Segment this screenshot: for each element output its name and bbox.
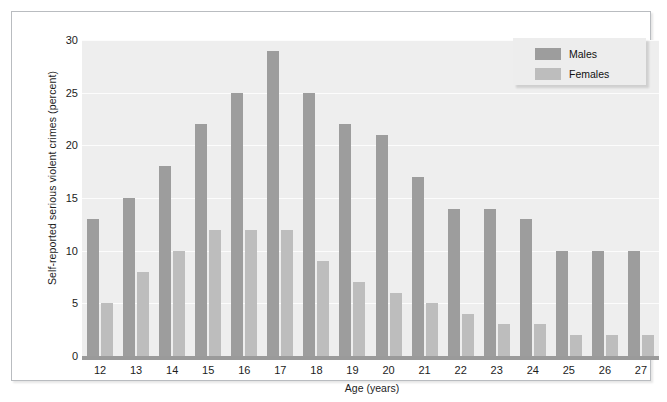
bar-females-age-15 <box>209 230 221 356</box>
y-axis-tick-labels: 051015202530 <box>42 12 78 402</box>
x-axis-label: Age (years) <box>82 382 662 394</box>
bar-males-age-25 <box>556 251 568 356</box>
bar-females-age-27 <box>642 335 654 356</box>
x-tick-label-23: 23 <box>491 364 503 376</box>
y-tick-label: 30 <box>56 34 78 46</box>
bar-females-age-20 <box>390 293 402 356</box>
y-tick-label: 0 <box>56 350 78 362</box>
bar-males-age-27 <box>628 251 640 356</box>
legend-label-females: Females <box>569 68 609 80</box>
bar-females-age-21 <box>426 303 438 356</box>
plot-area <box>82 40 659 356</box>
bar-females-age-22 <box>462 314 474 356</box>
x-tick-label-19: 19 <box>346 364 358 376</box>
x-tick-label-20: 20 <box>382 364 394 376</box>
x-tick-label-17: 17 <box>274 364 286 376</box>
x-tick-label-14: 14 <box>166 364 178 376</box>
bar-males-age-23 <box>484 209 496 356</box>
x-tick-label-24: 24 <box>527 364 539 376</box>
bar-males-age-15 <box>195 124 207 356</box>
bar-males-age-16 <box>231 93 243 356</box>
bar-females-age-24 <box>534 324 546 356</box>
bar-females-age-17 <box>281 230 293 356</box>
x-tick-label-18: 18 <box>310 364 322 376</box>
legend-item-males: Males <box>535 47 597 61</box>
bar-females-age-13 <box>137 272 149 356</box>
legend-swatch-females <box>535 68 561 80</box>
y-tick-label: 10 <box>56 245 78 257</box>
bar-females-age-19 <box>353 282 365 356</box>
x-tick-label-26: 26 <box>599 364 611 376</box>
y-tick-label: 25 <box>56 87 78 99</box>
legend-item-females: Females <box>535 67 609 81</box>
y-tick-label: 5 <box>56 297 78 309</box>
x-tick-label-13: 13 <box>130 364 142 376</box>
bar-males-age-20 <box>376 135 388 356</box>
chart-frame: Self-reported serious violent crimes (pe… <box>11 11 651 381</box>
bar-males-age-12 <box>87 219 99 356</box>
x-tick-label-22: 22 <box>455 364 467 376</box>
bar-males-age-18 <box>303 93 315 356</box>
y-tick-label: 15 <box>56 192 78 204</box>
bar-males-age-24 <box>520 219 532 356</box>
gridline <box>82 145 659 146</box>
figure: Self-reported serious violent crimes (pe… <box>0 0 667 402</box>
bar-males-age-22 <box>448 209 460 356</box>
x-tick-label-15: 15 <box>202 364 214 376</box>
gridline <box>82 93 659 94</box>
x-axis-baseline <box>82 356 659 360</box>
bar-males-age-13 <box>123 198 135 356</box>
legend-label-males: Males <box>569 48 597 60</box>
bar-females-age-18 <box>317 261 329 356</box>
x-tick-label-12: 12 <box>94 364 106 376</box>
x-tick-label-25: 25 <box>563 364 575 376</box>
bar-females-age-25 <box>570 335 582 356</box>
x-tick-label-27: 27 <box>635 364 647 376</box>
bar-females-age-23 <box>498 324 510 356</box>
legend-swatch-males <box>535 48 561 60</box>
bar-males-age-21 <box>412 177 424 356</box>
bar-males-age-26 <box>592 251 604 356</box>
legend: MalesFemales <box>513 38 646 85</box>
x-tick-label-16: 16 <box>238 364 250 376</box>
bar-females-age-26 <box>606 335 618 356</box>
bar-females-age-12 <box>101 303 113 356</box>
bar-females-age-16 <box>245 230 257 356</box>
bar-females-age-14 <box>173 251 185 356</box>
bar-males-age-17 <box>267 51 279 356</box>
y-tick-label: 20 <box>56 139 78 151</box>
bar-males-age-14 <box>159 166 171 356</box>
x-tick-label-21: 21 <box>418 364 430 376</box>
bar-males-age-19 <box>339 124 351 356</box>
